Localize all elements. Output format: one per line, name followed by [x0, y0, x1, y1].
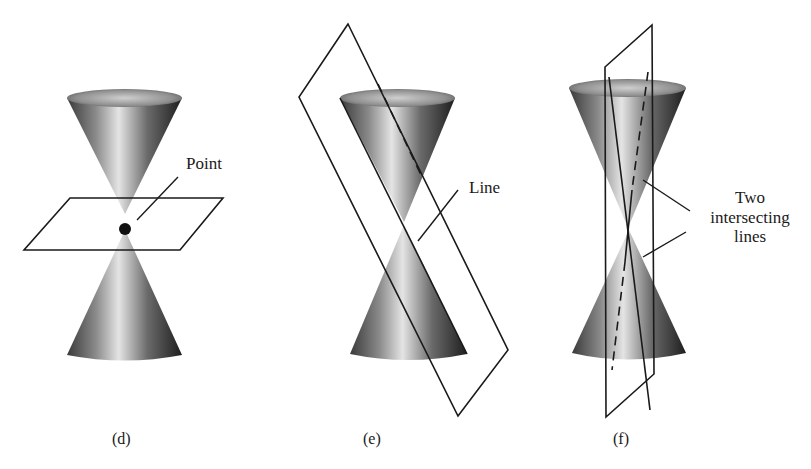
panel-e [299, 24, 508, 416]
caption-e: (e) [363, 430, 381, 448]
caption-d: (d) [112, 430, 131, 448]
point-label: Point [186, 154, 222, 174]
panel-f [569, 25, 690, 417]
panel-d [24, 89, 223, 361]
label-line-1: Two [690, 188, 810, 208]
lower-nappe [572, 230, 686, 360]
label-line-3: lines [690, 227, 810, 247]
upper-nappe [67, 89, 182, 214]
two-lines-leader-lower [643, 232, 686, 257]
vertex-point [119, 223, 131, 235]
upper-nappe [340, 89, 455, 222]
two-intersecting-lines-label: Two intersecting lines [690, 188, 810, 247]
two-lines-leader-upper [643, 180, 690, 211]
lower-nappe [350, 225, 467, 360]
line-label: Line [469, 178, 500, 198]
line-leader-line [418, 190, 458, 241]
upper-nappe [569, 79, 686, 228]
caption-f: (f) [613, 430, 629, 448]
label-line-2: intersecting [690, 208, 810, 228]
